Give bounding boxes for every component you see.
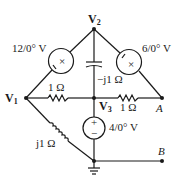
node-v1-label: V1 <box>5 91 18 106</box>
source-left-x-mark: × <box>59 55 65 67</box>
source-right-minus-mark <box>122 54 125 58</box>
capacitor <box>86 29 102 98</box>
source-bottom-minus: − <box>91 127 97 139</box>
inductor <box>26 98 94 161</box>
terminal-b-dot <box>160 159 164 163</box>
inductor-label: j1 Ω <box>35 137 55 149</box>
right-voltage-source: × <box>117 50 142 75</box>
node-v2-dot <box>92 27 96 31</box>
terminal-b-label: B <box>158 145 165 157</box>
bottom-voltage-source: + − <box>83 116 105 139</box>
node-v2-label: V2 <box>88 12 101 27</box>
source-right-x-mark: × <box>128 58 134 70</box>
resistor-left-label: 1 Ω <box>48 81 64 93</box>
circuit-diagram: × 12/0° V × 6/0° V −j1 Ω 1 Ω 1 Ω + − <box>0 0 177 186</box>
source-right-label: 6/0° V <box>142 42 171 54</box>
terminal-a-dot <box>160 96 164 100</box>
left-voltage-source: × <box>49 49 74 74</box>
node-v1-dot <box>24 96 28 100</box>
node-ground-dot <box>92 159 96 163</box>
capacitor-label: −j1 Ω <box>97 73 123 85</box>
resistor-right-label: 1 Ω <box>120 101 136 113</box>
source-bottom-label: 4/0° V <box>109 121 138 133</box>
terminal-a-label: A <box>155 102 163 114</box>
source-left-minus-mark <box>53 65 56 69</box>
resistor-left <box>26 95 94 101</box>
node-v3-dot <box>92 96 96 100</box>
node-v3-label: V3 <box>99 99 112 114</box>
source-left-label: 12/0° V <box>12 42 47 54</box>
